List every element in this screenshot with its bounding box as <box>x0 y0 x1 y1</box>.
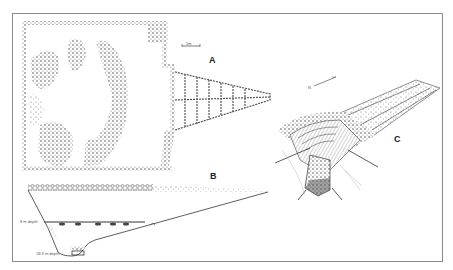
depth-label-upper: 8 m depth <box>20 219 38 224</box>
panel-label-a: A <box>209 55 216 65</box>
figure-artwork <box>0 0 453 270</box>
section-b <box>28 184 268 256</box>
scale-bar-label: 5m <box>186 41 192 46</box>
panel-label-c: C <box>394 134 401 144</box>
isometric-c <box>275 77 440 200</box>
north-arrow-label: N <box>308 85 311 90</box>
plan-a <box>22 21 270 171</box>
north-arrow <box>314 77 336 86</box>
panel-label-b: B <box>210 171 217 181</box>
depth-label-lower: 18.3 m depth <box>36 251 59 256</box>
